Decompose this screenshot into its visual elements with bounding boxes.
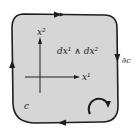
form-label: dx¹ ∧ dx²: [57, 46, 99, 56]
x2-axis-label: x²: [37, 27, 46, 37]
boundary-label: ∂c: [122, 56, 131, 65]
x1-axis-label: x¹: [82, 72, 91, 82]
region-label: c: [24, 101, 29, 111]
chain-diagram: x² x¹ dx¹ ∧ dx² ∂c c: [0, 0, 138, 138]
